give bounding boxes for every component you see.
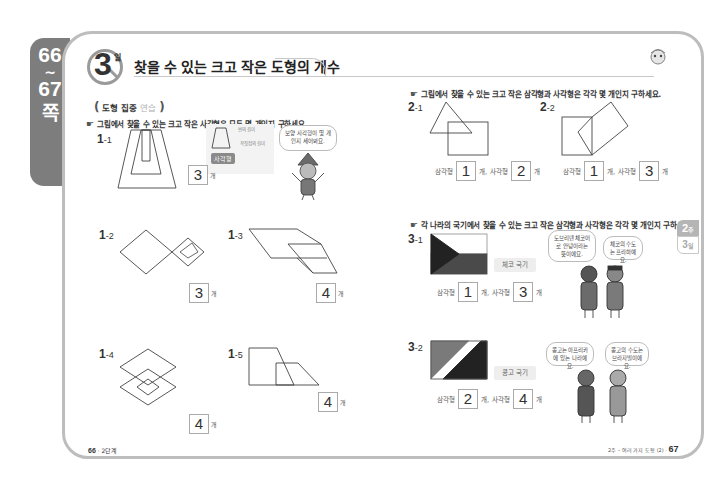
footer-right: 2주 – 여러 가지 도형 (2) · 67: [608, 444, 679, 454]
czech-characters-icon: [575, 264, 631, 320]
week-day-side-tab[interactable]: 2주 3일: [677, 220, 699, 254]
answer-2-2: 삼각형 1 개, 사각형 3 개: [563, 161, 668, 181]
congo-characters-icon: [570, 368, 636, 424]
question-label-2-1: 2-1: [408, 100, 423, 114]
flag-name-label: 체코 국기: [494, 258, 536, 272]
mascot-illustration-icon: [646, 46, 670, 66]
question-label-3-1: 3-1: [408, 232, 423, 246]
title-tab-curve: [275, 58, 326, 77]
pointing-hand-icon: ☛: [86, 119, 97, 129]
question-label-1-5: 1-5: [228, 347, 243, 361]
hint-trapezoid-figure: [212, 128, 232, 150]
answer-1-4: 4 개: [189, 414, 217, 434]
speech-bubble-right: 체코의 수도는 프라하예요.: [603, 236, 643, 260]
congo-flag-figure: [431, 341, 487, 379]
title-underline: [134, 76, 654, 77]
speech-bubble-left: 콩고는 아프리카에 있는 나라예요.: [546, 342, 594, 366]
instruction-2: ☛그림에서 찾을 수 있는 크고 작은 삼각형과 사각형은 각각 몇 개인지 구…: [410, 88, 661, 99]
section-label: 도형 집중: [102, 103, 137, 113]
answer-3-2: 삼각형 2 개, 사각형 4 개: [437, 389, 542, 409]
day-number: 3: [94, 46, 112, 83]
hint-note-bottom: 꼭짓점의 길이: [240, 140, 265, 146]
hint-tag: 사각형: [211, 153, 235, 164]
answer-2-1: 삼각형 1 개, 사각형 2 개: [435, 161, 540, 181]
footer-left: 66 · 2단계: [88, 446, 117, 455]
question-label-3-2: 3-2: [408, 340, 423, 354]
day-indicator: 3일: [677, 236, 699, 254]
question-label-1-1: 1-1: [97, 132, 112, 146]
section-badge: ( 도형 집중 연습 ): [94, 100, 165, 114]
question-label-1-3: 1-3: [228, 228, 243, 242]
question-label-2-2: 2-2: [540, 100, 555, 114]
figure-1-5-trapezoids: [249, 348, 321, 388]
figure-1-4-stacked-diamonds: [120, 349, 180, 411]
speech-bubble-right: 콩고의 수도는 브라자빌이에요.: [605, 342, 649, 366]
left-page-number: 66: [88, 447, 96, 454]
instruction-3: ☛각 나라의 국기에서 찾을 수 있는 크고 작은 삼각형과 사각형은 각각 몇…: [410, 219, 693, 230]
answer-1-1: 3 개: [188, 165, 216, 185]
answer-1-5: 4 개: [318, 392, 346, 412]
answer-1-3: 4 개: [316, 283, 344, 303]
pointing-hand-icon: ☛: [410, 220, 421, 230]
czech-flag-figure: [431, 234, 487, 274]
question-label-1-2: 1-2: [99, 228, 114, 242]
pointing-hand-icon: ☛: [410, 89, 421, 99]
hint-speech-bubble: 보양 사각형이 몇 개인지 세어봐요.: [279, 125, 337, 151]
answer-3-1: 삼각형 1 개, 사각형 3 개: [437, 282, 542, 302]
section-label-accent: 연습: [140, 103, 156, 113]
speech-bubble-left: 도브리덴 체코어로 안녕이라는 뜻이에요.: [548, 230, 596, 262]
day-label: 일: [114, 51, 121, 62]
question-label-1-4: 1-4: [99, 347, 114, 361]
answer-box[interactable]: 3: [188, 165, 208, 185]
figure-1-1-nested-trapezoids: [118, 130, 188, 190]
flag-name-label: 콩고 국기: [494, 366, 536, 380]
hint-note-top: 변의 길이: [238, 126, 255, 132]
wizard-character-icon: [290, 153, 326, 201]
figure-1-3-parallelograms: [249, 229, 337, 277]
figure-2-1-triangle-rectangle: [430, 102, 490, 156]
figure-2-2-rotated-squares: [562, 102, 628, 158]
figure-1-2-diamonds: [120, 230, 210, 276]
week-indicator: 2주: [677, 220, 699, 236]
right-page-number: 67: [668, 444, 678, 454]
answer-1-2: 3 개: [189, 283, 217, 303]
instruction-1: ☛그림에서 찾을 수 있는 크고 작은 사각형은 모두 몇 개인지 구하세요.: [86, 118, 307, 129]
